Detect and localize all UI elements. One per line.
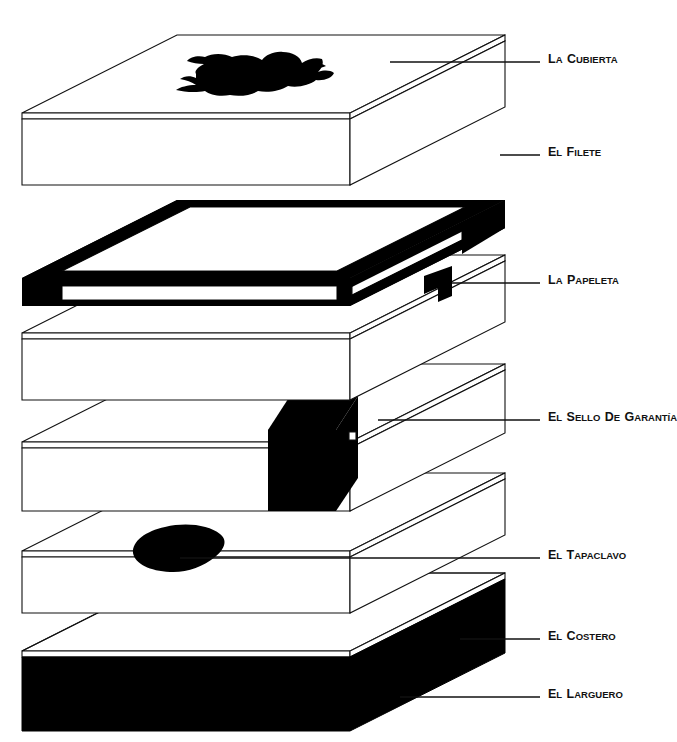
part-cubierta-slab xyxy=(22,35,505,185)
black-corner-block xyxy=(268,396,358,511)
callout-el-tapaclavo: EL TAPACLAVO xyxy=(548,546,626,562)
callout-el-filete-text: EL FILETE xyxy=(548,143,601,159)
callout-la-cubierta: LA CUBIERTA xyxy=(548,50,618,66)
cubierta-slab-edge-band xyxy=(22,113,350,119)
filete-frame-inner-window-front xyxy=(62,286,337,300)
callout-el-costero-text: EL COSTERO xyxy=(548,627,616,643)
callout-el-larguero-text: EL LARGUERO xyxy=(548,685,623,701)
callout-el-filete: EL FILETE xyxy=(548,143,601,159)
callout-el-costero: EL COSTERO xyxy=(548,627,616,643)
callout-el-tapaclavo-text: EL TAPACLAVO xyxy=(548,546,626,562)
base-slab-costero-band xyxy=(22,651,350,657)
callout-la-papeleta: LA PAPELETA xyxy=(548,271,619,287)
callout-la-papeleta-text: LA PAPELETA xyxy=(548,271,619,287)
sello-slab-notch xyxy=(349,432,356,440)
callout-el-sello-de-garantia-text: EL SELLO DE GARANTÍA xyxy=(548,408,677,424)
callout-el-sello-de-garantia: EL SELLO DE GARANTÍA xyxy=(548,408,677,424)
filete-frame-lower-bar xyxy=(22,300,350,306)
papeleta-slab-front-face xyxy=(22,339,350,400)
callout-la-cubierta-text: LA CUBIERTA xyxy=(548,50,618,66)
papeleta-slab-edge-band xyxy=(22,333,350,339)
callout-el-larguero: EL LARGUERO xyxy=(548,685,623,701)
cubierta-slab-front-face xyxy=(22,119,350,185)
filete-frame-upper-bar xyxy=(22,278,350,286)
base-slab-front-black-face xyxy=(22,657,350,731)
